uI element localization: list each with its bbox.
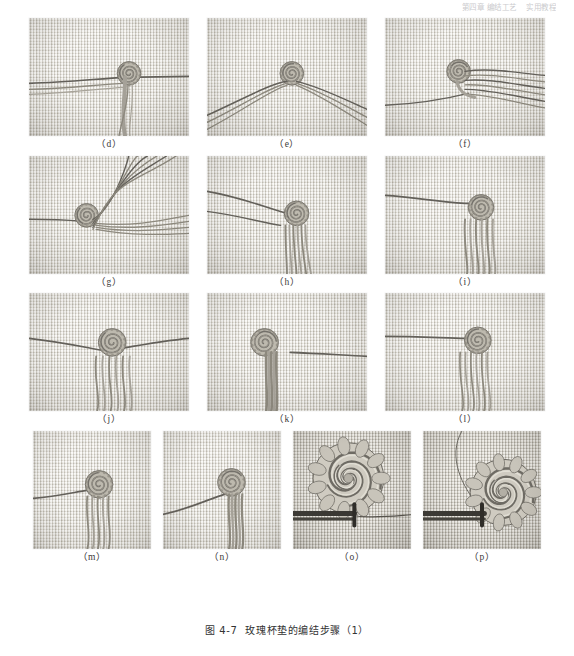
- figure-caption: 图 4-7玫瑰杯垫的编结步骤（1）: [0, 622, 574, 637]
- macrame-cord-artwork: [29, 18, 189, 136]
- photo-f[interactable]: [385, 18, 545, 136]
- macrame-cord-artwork: [385, 156, 545, 274]
- macrame-cord-artwork: [163, 431, 281, 549]
- macrame-cord-artwork: [29, 156, 189, 274]
- figure-panel-o: （o）: [293, 431, 411, 563]
- macrame-cord-artwork: [207, 18, 367, 136]
- photo-g[interactable]: [29, 156, 189, 274]
- panel-label-l: （l）: [453, 415, 477, 425]
- figure-photo-grid: （d）（e）（f）（g）（h）（i）（j）（k）（l）（m）（n）（o）（p）: [0, 18, 574, 568]
- photo-e[interactable]: [207, 18, 367, 136]
- figure-panel-p: （p）: [423, 431, 541, 563]
- figure-panel-i: （i）: [385, 156, 545, 288]
- photo-k[interactable]: [207, 293, 367, 411]
- panel-label-d: （d）: [96, 140, 122, 150]
- page-running-header: 第四章 编结工艺 实用教程: [462, 0, 556, 12]
- photo-n[interactable]: [163, 431, 281, 549]
- macrame-cord-artwork: [385, 293, 545, 411]
- figure-panel-k: （k）: [207, 293, 367, 425]
- panel-label-g: （g）: [96, 278, 122, 288]
- photo-row-1: （d）（e）（f）: [0, 18, 574, 150]
- panel-label-f: （f）: [453, 140, 478, 150]
- figure-panel-m: （m）: [33, 431, 151, 563]
- photo-row-3: （j）（k）（l）: [0, 293, 574, 425]
- running-header-title: 第四章 编结工艺: [462, 1, 517, 12]
- running-header-subtitle: 实用教程: [526, 1, 556, 12]
- figure-panel-e: （e）: [207, 18, 367, 150]
- macrame-cord-artwork: [207, 293, 367, 411]
- photo-j[interactable]: [29, 293, 189, 411]
- photo-i[interactable]: [385, 156, 545, 274]
- macrame-cord-artwork: [29, 293, 189, 411]
- photo-d[interactable]: [29, 18, 189, 136]
- macrame-cord-artwork: [385, 18, 545, 136]
- photo-h[interactable]: [207, 156, 367, 274]
- macrame-cord-artwork: [207, 156, 367, 274]
- figure-panel-f: （f）: [385, 18, 545, 150]
- figure-panel-n: （n）: [163, 431, 281, 563]
- figure-panel-l: （l）: [385, 293, 545, 425]
- photo-o[interactable]: [293, 431, 411, 549]
- photo-m[interactable]: [33, 431, 151, 549]
- figure-panel-h: （h）: [207, 156, 367, 288]
- panel-label-i: （i）: [453, 278, 477, 288]
- panel-label-n: （n）: [209, 553, 235, 563]
- figure-panel-g: （g）: [29, 156, 189, 288]
- panel-label-j: （j）: [97, 415, 121, 425]
- figure-panel-d: （d）: [29, 18, 189, 150]
- macrame-cord-artwork: [293, 431, 411, 549]
- photo-row-4: （m）（n）（o）（p）: [0, 431, 574, 563]
- macrame-cord-artwork: [33, 431, 151, 549]
- panel-label-m: （m）: [78, 553, 107, 563]
- panel-label-k: （k）: [274, 415, 300, 425]
- figure-caption-number: 图 4-7: [205, 625, 238, 636]
- panel-label-p: （p）: [469, 553, 495, 563]
- photo-row-2: （g）（h）（i）: [0, 156, 574, 288]
- photo-p[interactable]: [423, 431, 541, 549]
- figure-panel-j: （j）: [29, 293, 189, 425]
- panel-label-h: （h）: [274, 278, 300, 288]
- photo-l[interactable]: [385, 293, 545, 411]
- panel-label-o: （o）: [339, 553, 365, 563]
- macrame-cord-artwork: [423, 431, 541, 549]
- figure-caption-text: 玫瑰杯垫的编结步骤（1）: [245, 625, 369, 636]
- panel-label-e: （e）: [274, 140, 300, 150]
